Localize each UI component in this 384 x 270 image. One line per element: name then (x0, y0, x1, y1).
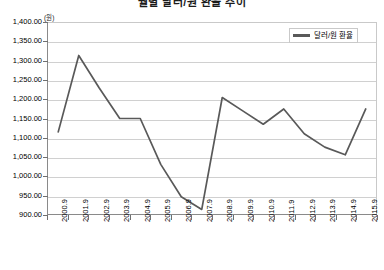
y-axis-tick-label: 1,150.00 (13, 115, 42, 123)
y-axis-tick-mark (43, 176, 48, 177)
plot-area (47, 22, 377, 215)
y-axis-tick-label: 900.00 (19, 211, 42, 219)
x-axis-tick-mark (233, 215, 234, 220)
y-axis-tick-label: 1,400.00 (13, 18, 42, 26)
x-axis-tick-mark (377, 215, 378, 220)
y-axis-tick-mark (43, 80, 48, 81)
x-axis-tick-mark (68, 215, 69, 220)
x-axis-tick-mark (150, 215, 151, 220)
x-axis-tick-mark (130, 215, 131, 220)
x-axis-tick-mark (88, 215, 89, 220)
legend: 달러/원 환율 (289, 28, 358, 43)
legend-swatch-icon (293, 34, 310, 37)
series-line-dollar-won-exchange-rate (48, 23, 376, 214)
x-axis-tick-mark (109, 215, 110, 220)
y-axis-tick-mark (43, 196, 48, 197)
x-axis-tick-mark (356, 215, 357, 220)
x-axis-tick-mark (171, 215, 172, 220)
x-axis-tick-mark (47, 215, 48, 220)
x-axis-tick-mark (274, 215, 275, 220)
x-axis-tick-mark (212, 215, 213, 220)
legend-item-label: 달러/원 환율 (314, 31, 353, 40)
y-axis-tick-mark (43, 119, 48, 120)
chart-title: 월별 달러/원 환율 추이 (0, 0, 384, 9)
x-axis-tick-mark (191, 215, 192, 220)
y-axis-tick-mark (43, 61, 48, 62)
y-axis-tick-mark (43, 22, 48, 23)
series-polyline (58, 55, 366, 209)
y-axis-tick-label: 1,200.00 (13, 95, 42, 103)
y-axis-tick-label: 950.00 (19, 192, 42, 200)
y-axis-tick-mark (43, 41, 48, 42)
y-axis-tick-label: 1,250.00 (13, 76, 42, 84)
y-axis-tick-label: 1,300.00 (13, 57, 42, 65)
x-axis-tick-mark (336, 215, 337, 220)
y-axis-tick-mark (43, 157, 48, 158)
x-axis-tick-mark (253, 215, 254, 220)
y-axis-unit-label: (원) (44, 12, 54, 22)
y-axis-tick-label: 1,100.00 (13, 134, 42, 142)
y-axis-tick-label: 1,000.00 (13, 172, 42, 180)
y-axis-tick-label: 1,350.00 (13, 37, 42, 45)
x-axis-tick-mark (315, 215, 316, 220)
x-axis-tick-mark (295, 215, 296, 220)
y-axis-tick-mark (43, 138, 48, 139)
exchange-rate-chart-figure: 월별 달러/원 환율 추이 (원) 달러/원 환율 1,400.001,350.… (0, 0, 384, 270)
y-axis-tick-mark (43, 99, 48, 100)
y-axis-tick-label: 1,050.00 (13, 153, 42, 161)
